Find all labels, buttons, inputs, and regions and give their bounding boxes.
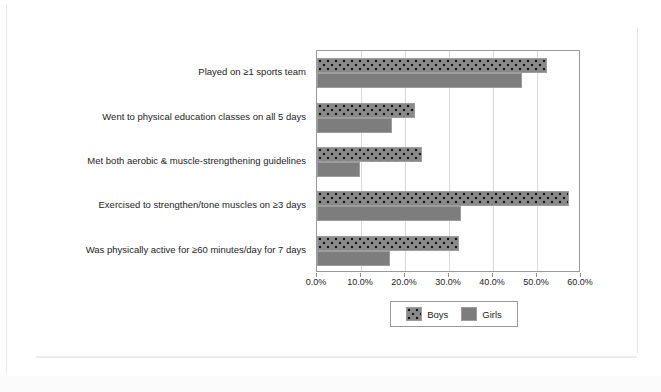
category-label: Exercised to strengthen/tone muscles on … bbox=[0, 199, 306, 211]
chart-legend: Boys Girls bbox=[390, 301, 518, 327]
plot-area bbox=[316, 50, 580, 272]
bar-girls bbox=[317, 206, 461, 221]
bar-chart: Played on ≥1 sports teamWent to physical… bbox=[0, 0, 661, 392]
bar-group bbox=[317, 147, 579, 177]
bar-group bbox=[317, 103, 579, 133]
bar-group bbox=[317, 191, 579, 221]
bar-girls bbox=[317, 162, 360, 177]
legend-item-boys: Boys bbox=[406, 307, 448, 321]
x-tick-label: 30.0% bbox=[435, 277, 461, 287]
x-tick-label: 60.0% bbox=[567, 277, 593, 287]
bar-girls bbox=[317, 251, 390, 266]
bar-group bbox=[317, 58, 579, 88]
x-tick-label: 40.0% bbox=[479, 277, 505, 287]
bars-layer bbox=[317, 51, 579, 271]
category-label: Was physically active for ≥60 minutes/da… bbox=[0, 244, 306, 256]
scanned-page: Played on ≥1 sports teamWent to physical… bbox=[0, 0, 661, 392]
legend-swatch-boys-icon bbox=[406, 307, 422, 321]
bar-boys bbox=[317, 103, 415, 118]
x-tick-label: 0.0% bbox=[306, 277, 327, 287]
x-tick-label: 10.0% bbox=[347, 277, 373, 287]
category-label: Went to physical education classes on al… bbox=[0, 111, 306, 123]
category-label: Met both aerobic & muscle-strengthening … bbox=[0, 155, 306, 167]
x-tick-label: 50.0% bbox=[523, 277, 549, 287]
bar-boys bbox=[317, 191, 569, 206]
x-tick-label: 20.0% bbox=[391, 277, 417, 287]
bar-boys bbox=[317, 58, 547, 73]
legend-label-girls: Girls bbox=[482, 309, 502, 320]
legend-label-boys: Boys bbox=[427, 309, 448, 320]
bar-boys bbox=[317, 147, 422, 162]
bar-girls bbox=[317, 118, 392, 133]
bar-boys bbox=[317, 236, 459, 251]
bar-girls bbox=[317, 73, 522, 88]
legend-swatch-girls-icon bbox=[461, 307, 477, 321]
bar-group bbox=[317, 236, 579, 266]
category-label: Played on ≥1 sports team bbox=[0, 66, 306, 78]
legend-item-girls: Girls bbox=[461, 307, 502, 321]
